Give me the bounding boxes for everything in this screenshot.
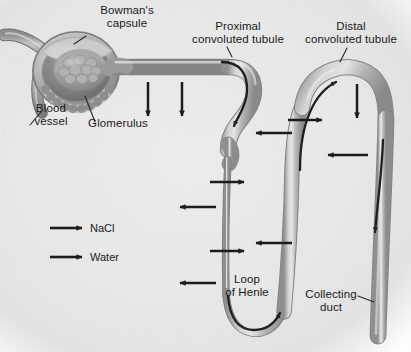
label-glomerulus: Glomerulus <box>82 117 154 130</box>
label-collecting-duct: Collecting duct <box>296 288 366 313</box>
label-bowmans-capsule: Bowman's capsule <box>84 4 170 29</box>
legend-item-nacl: NaCl <box>90 222 114 234</box>
label-proximal-convoluted-tubule: Proximal convoluted tubule <box>186 20 290 45</box>
legend-item-water: Water <box>90 251 119 263</box>
label-blood-vessel: Blood vessel <box>28 102 74 127</box>
label-loop-of-henle: Loop of Henle <box>216 273 278 298</box>
label-distal-convoluted-tubule: Distal convoluted tubule <box>296 20 406 45</box>
nephron-diagram: Bowman's capsule Glomerulus Blood vessel… <box>0 0 411 352</box>
